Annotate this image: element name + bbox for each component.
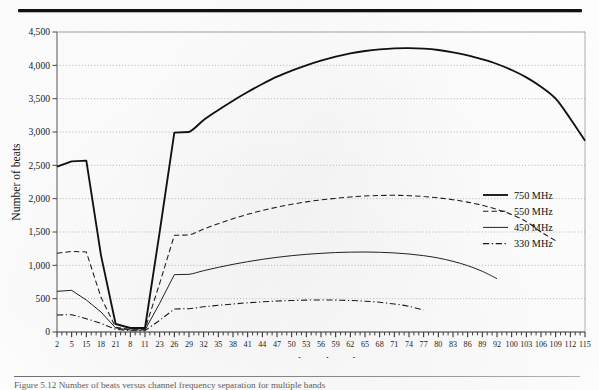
x-axis-tick-label: 35 xyxy=(214,340,222,349)
data-series-group xyxy=(57,48,585,331)
y-axis-tick-label: 1,500 xyxy=(28,226,50,237)
x-axis-tick-label: 15 xyxy=(82,340,90,349)
series-line xyxy=(57,48,585,328)
y-axis-tick-label: 3,000 xyxy=(28,126,50,137)
x-axis-tick-label: 47 xyxy=(273,340,281,349)
y-axis-tick-label: 2,500 xyxy=(28,160,50,171)
x-axis-tick-label: 65 xyxy=(361,340,369,349)
x-axis-tick-label: 62 xyxy=(346,340,354,349)
x-axis-tick-label: 5 xyxy=(70,340,74,349)
x-axis-title: Channel number xyxy=(291,356,368,358)
figure-caption: Figure 5.12 Number of beats versus chann… xyxy=(14,381,584,390)
x-axis-tick-label: 109 xyxy=(550,340,562,349)
x-axis-tick-label: 56 xyxy=(317,340,325,349)
x-axis-tick-label: 68 xyxy=(376,340,384,349)
y-axis-tick-label: 2,000 xyxy=(28,193,50,204)
x-axis-tick-label: 44 xyxy=(258,340,266,349)
y-axis-tick-label: 1,000 xyxy=(28,260,50,271)
y-axis-tick-label: 3,500 xyxy=(28,93,50,104)
x-axis-tick-label: 59 xyxy=(332,340,340,349)
x-axis-tick-label: 77 xyxy=(420,340,428,349)
x-axis-tick-label: 53 xyxy=(302,340,310,349)
x-axis-tick-label: 2 xyxy=(55,340,59,349)
legend-label: 450 MHz xyxy=(514,222,553,233)
plot-frame xyxy=(57,32,585,332)
y-axis-tick-label: 500 xyxy=(36,293,51,304)
legend-label: 550 MHz xyxy=(514,206,553,217)
x-axis-tick-label: 83 xyxy=(449,340,457,349)
x-axis-tick-label: 11 xyxy=(141,340,149,349)
x-axis-tick-label: 8 xyxy=(128,340,132,349)
legend-label: 750 MHz xyxy=(514,190,553,201)
x-axis-tick-label: 115 xyxy=(579,340,591,349)
y-axis-tick-label: 4,000 xyxy=(28,60,50,71)
y-axis-tick-label: 4,500 xyxy=(28,26,50,37)
x-axis-tick-label: 18 xyxy=(97,340,105,349)
x-axis-tick-labels: 2515182181123262932353841444750535659626… xyxy=(55,340,591,349)
x-axis-tick-label: 92 xyxy=(493,340,501,349)
series-line xyxy=(57,252,497,330)
x-axis-ticks-group xyxy=(57,332,585,337)
x-axis-tick-label: 71 xyxy=(390,340,398,349)
x-axis-tick-label: 41 xyxy=(244,340,252,349)
x-axis-tick-label: 21 xyxy=(112,340,120,349)
x-axis-tick-label: 29 xyxy=(185,340,193,349)
x-axis-tick-label: 103 xyxy=(520,340,532,349)
x-axis-tick-label: 86 xyxy=(464,340,472,349)
x-axis-tick-label: 89 xyxy=(478,340,486,349)
y-axis-tick-labels: 05001,0001,5002,0002,5003,0003,5004,0004… xyxy=(28,26,50,337)
legend-label: 330 MHz xyxy=(514,238,553,249)
x-axis-tick-label: 38 xyxy=(229,340,237,349)
x-axis-tick-label: 50 xyxy=(288,340,296,349)
scanned-book-page: 05001,0001,5002,0002,5003,0003,5004,0004… xyxy=(0,0,599,390)
gridlines-group xyxy=(57,32,585,299)
y-axis-ticks-group xyxy=(53,32,58,332)
top-horizontal-rule xyxy=(18,9,582,12)
y-axis-title: Number of beats xyxy=(10,143,23,221)
x-axis-tick-label: 26 xyxy=(170,340,178,349)
caption-separator-rule xyxy=(14,376,580,377)
series-line xyxy=(57,195,556,329)
x-axis-tick-label: 23 xyxy=(156,340,164,349)
x-axis-tick-label: 80 xyxy=(434,340,442,349)
x-axis-tick-label: 100 xyxy=(506,340,518,349)
x-axis-tick-label: 74 xyxy=(405,340,413,349)
chart-figure: 05001,0001,5002,0002,5003,0003,5004,0004… xyxy=(0,18,599,358)
figure-caption-text: Figure 5.12 Number of beats versus chann… xyxy=(14,381,584,390)
x-axis-tick-label: 106 xyxy=(535,340,547,349)
x-axis-tick-label: 112 xyxy=(564,340,576,349)
x-axis-tick-label: 32 xyxy=(200,340,208,349)
y-axis-tick-label: 0 xyxy=(45,326,50,337)
chart-svg: 05001,0001,5002,0002,5003,0003,5004,0004… xyxy=(0,18,599,358)
legend: 750 MHz550 MHz450 MHz330 MHz xyxy=(483,190,553,250)
